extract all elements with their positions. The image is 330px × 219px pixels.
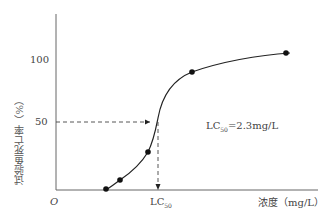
chart-canvas: [0, 0, 330, 219]
lc50-text: LC: [150, 196, 164, 207]
data-point: [103, 186, 109, 192]
data-point: [117, 177, 123, 183]
lc50-subscript: 50: [164, 202, 172, 209]
data-point: [145, 149, 151, 155]
annotation-prefix: LC: [206, 120, 220, 131]
x-tick-lc50: LC50: [150, 196, 172, 209]
x-axis-label: 浓度（mg/L）: [258, 194, 324, 209]
y-axis-label: 试验鱼死亡率（%）: [12, 95, 27, 185]
origin-label: O: [50, 196, 58, 207]
y-tick-50: 50: [35, 116, 48, 127]
y-tick-100: 100: [30, 54, 49, 65]
annotation-subscript: 50: [220, 126, 228, 133]
data-point: [189, 69, 195, 75]
arrow-left-icon: [145, 120, 150, 125]
data-point: [283, 50, 289, 56]
arrow-down-icon: [156, 184, 161, 190]
lc50-annotation: LC50=2.3mg/L: [206, 120, 278, 133]
annotation-value: =2.3mg/L: [228, 120, 278, 131]
